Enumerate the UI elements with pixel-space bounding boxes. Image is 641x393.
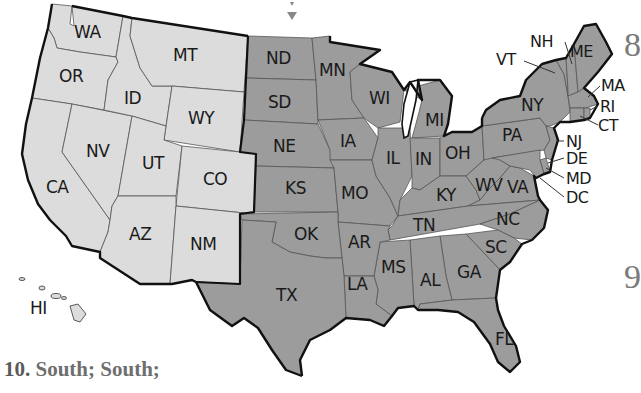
state-ms xyxy=(374,240,414,316)
label-ga: GA xyxy=(457,264,481,281)
label-de: DE xyxy=(566,151,587,167)
label-sc: SC xyxy=(485,239,507,256)
label-me: ME xyxy=(570,44,593,60)
label-nv: NV xyxy=(86,143,109,160)
label-wy: WY xyxy=(188,110,214,127)
label-ok: OK xyxy=(294,226,318,243)
state-ny xyxy=(482,60,570,126)
label-tn: TN xyxy=(413,217,435,234)
label-fl: FL xyxy=(495,331,513,348)
label-wi: WI xyxy=(369,90,390,107)
label-dc: DC xyxy=(566,190,589,206)
label-ca: CA xyxy=(46,179,69,196)
label-mo: MO xyxy=(341,185,368,202)
answer-text: 10. South; South; xyxy=(4,357,160,382)
label-in: IN xyxy=(415,151,432,168)
label-ri: RI xyxy=(600,99,615,115)
label-pa: PA xyxy=(502,127,522,144)
label-nh: NH xyxy=(530,34,553,50)
label-mt: MT xyxy=(173,47,197,64)
label-ne: NE xyxy=(273,138,295,155)
label-ct: CT xyxy=(598,118,618,134)
label-mi: MI xyxy=(425,112,444,129)
label-il: IL xyxy=(386,150,400,167)
label-ma: MA xyxy=(601,78,625,94)
label-la: LA xyxy=(347,276,368,293)
label-co: CO xyxy=(203,171,227,188)
label-id: ID xyxy=(124,90,141,107)
label-nc: NC xyxy=(496,211,520,228)
answer-body: South; South; xyxy=(36,357,160,381)
label-nm: NM xyxy=(190,236,216,253)
label-ms: MS xyxy=(381,259,405,276)
label-ar: AR xyxy=(348,234,370,251)
label-md: MD xyxy=(566,171,591,187)
label-ky: KY xyxy=(436,187,456,204)
label-wv: WV xyxy=(475,177,502,194)
label-sd: SD xyxy=(268,94,291,111)
label-tx: TX xyxy=(276,287,297,304)
other-region xyxy=(196,24,612,376)
label-ny: NY xyxy=(521,97,543,114)
label-ia: IA xyxy=(340,133,356,150)
label-mn: MN xyxy=(319,62,345,79)
label-ks: KS xyxy=(285,180,306,197)
label-az: AZ xyxy=(129,226,151,243)
label-ut: UT xyxy=(142,155,164,172)
label-nd: ND xyxy=(266,50,291,67)
label-vt: VT xyxy=(496,52,516,68)
label-oh: OH xyxy=(445,145,470,162)
margin-question-number-bottom: 9 xyxy=(624,258,641,296)
label-wa: WA xyxy=(74,24,101,41)
label-or: OR xyxy=(59,68,83,85)
answer-number: 10. xyxy=(4,357,30,381)
label-va: VA xyxy=(507,179,528,196)
label-al: AL xyxy=(420,272,440,289)
down-arrow-icon xyxy=(287,2,297,20)
label-hi: HI xyxy=(30,300,47,317)
margin-question-number-top: 8 xyxy=(624,26,641,64)
label-nj: NJ xyxy=(566,134,582,150)
